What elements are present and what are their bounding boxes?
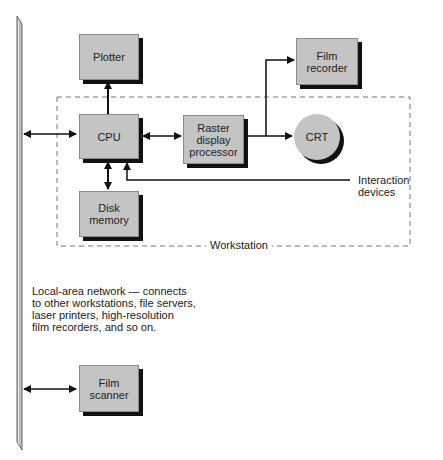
film-scanner-node: Film scanner xyxy=(79,365,139,412)
interaction-label-2: devices xyxy=(358,186,409,198)
network-description: Local-area network — connects to other w… xyxy=(32,285,196,333)
raster-label-3: processor xyxy=(189,146,237,158)
interaction-devices-label: Interaction devices xyxy=(358,174,409,198)
interaction-label-1: Interaction xyxy=(358,174,409,186)
plotter-label: Plotter xyxy=(93,51,125,63)
cpu-label: CPU xyxy=(97,131,120,143)
film-recorder-label-1: Film xyxy=(317,50,338,62)
edge-raster-film-recorder xyxy=(266,60,294,136)
network-bar xyxy=(17,16,22,450)
network-desc-1: Local-area network — connects xyxy=(32,285,196,297)
disk-label-1: Disk xyxy=(98,202,119,214)
film-recorder-node: Film recorder xyxy=(296,38,358,85)
raster-label-2: display xyxy=(196,134,230,146)
edge-interaction-cpu xyxy=(127,163,350,180)
network-desc-3: laser printers, high-resolution xyxy=(32,309,196,321)
cpu-node: CPU xyxy=(79,114,139,159)
crt-label: CRT xyxy=(306,131,328,143)
network-desc-4: film recorders, and so on. xyxy=(32,321,196,333)
workstation-label: Workstation xyxy=(206,239,272,251)
crt-node: CRT xyxy=(294,114,340,160)
network-desc-2: to other workstations, file servers, xyxy=(32,297,196,309)
film-recorder-label-2: recorder xyxy=(307,62,348,74)
plotter-node: Plotter xyxy=(79,34,139,80)
film-scanner-label-1: Film xyxy=(99,377,120,389)
diagram-lines xyxy=(0,0,443,460)
raster-display-processor-node: Raster display processor xyxy=(183,115,244,164)
raster-label-1: Raster xyxy=(197,122,229,134)
disk-memory-node: Disk memory xyxy=(79,191,139,237)
film-scanner-label-2: scanner xyxy=(89,389,128,401)
disk-label-2: memory xyxy=(89,214,129,226)
